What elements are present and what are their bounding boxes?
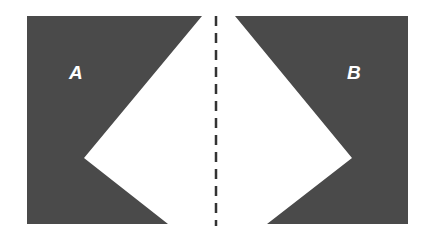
mirror-shapes-diagram: A B [0, 0, 430, 237]
shape-b [235, 16, 408, 224]
shape-a [27, 16, 202, 224]
shape-b-label: B [347, 62, 361, 83]
shape-a-label: A [68, 62, 83, 83]
